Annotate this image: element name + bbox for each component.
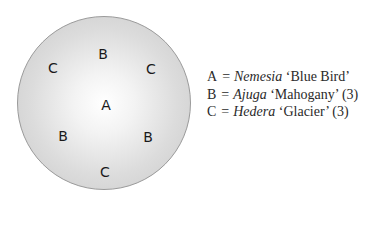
legend-row-a: A=Nemesia ‘Blue Bird’ [207,68,358,86]
legend-quantity: (3) [332,104,348,119]
legend-equals: = [221,87,229,102]
legend-key: A [207,69,217,84]
legend-genus: Hedera [233,104,275,119]
legend-quantity: (3) [342,87,358,102]
plant-label-c-upper-right: C [146,62,156,76]
legend-genus: Nemesia [234,69,282,84]
plant-label-b-lower-left: B [58,129,68,143]
plant-label-c-bottom: C [100,165,110,179]
legend-equals: = [222,69,230,84]
legend-genus: Ajuga [233,87,266,102]
legend: A=Nemesia ‘Blue Bird’ B=Ajuga ‘Mahogany’… [207,68,358,121]
plant-label-b-lower-right: B [143,130,153,144]
plant-label-a-center: A [101,98,111,112]
plant-label-b-top: B [98,47,108,61]
legend-cultivar: ‘Glacier’ [279,104,329,119]
legend-row-b: B=Ajuga ‘Mahogany’ (3) [207,86,358,104]
legend-cultivar: ‘Mahogany’ [270,87,338,102]
legend-cultivar: ‘Blue Bird’ [286,69,350,84]
legend-key: C [207,104,216,119]
plant-label-c-upper-left: C [48,61,58,75]
legend-equals: = [221,104,229,119]
legend-row-c: C=Hedera ‘Glacier’ (3) [207,103,358,121]
legend-key: B [207,87,216,102]
